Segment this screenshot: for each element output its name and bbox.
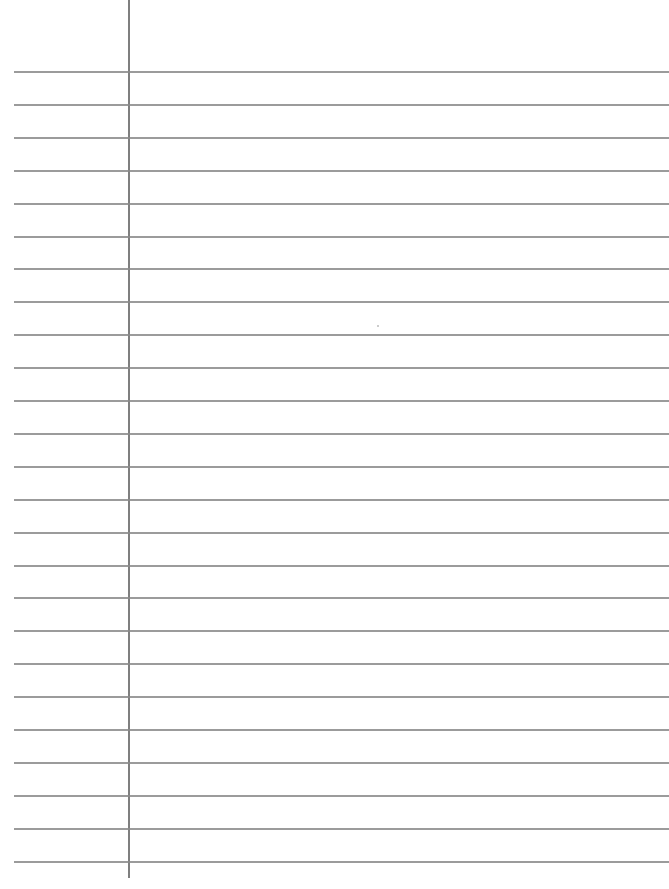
ruled-line xyxy=(14,104,669,106)
ruled-line xyxy=(14,334,669,336)
ruled-line xyxy=(14,663,669,665)
ruled-line xyxy=(14,795,669,797)
ruled-line xyxy=(14,236,669,238)
ruled-line xyxy=(14,696,669,698)
ruled-line xyxy=(14,565,669,567)
ruled-line xyxy=(14,466,669,468)
paper-speck xyxy=(377,325,379,327)
ruled-line xyxy=(14,367,669,369)
ruled-line xyxy=(14,71,669,73)
ruled-line xyxy=(14,301,669,303)
ruled-line xyxy=(14,433,669,435)
ruled-line xyxy=(14,499,669,501)
ruled-line xyxy=(14,762,669,764)
ruled-line xyxy=(14,400,669,402)
ruled-line xyxy=(14,268,669,270)
ruled-line xyxy=(14,137,669,139)
lined-paper-page xyxy=(0,0,669,889)
ruled-line xyxy=(14,170,669,172)
ruled-line xyxy=(14,828,669,830)
ruled-line xyxy=(14,729,669,731)
ruled-line xyxy=(14,630,669,632)
ruled-line xyxy=(14,597,669,599)
ruled-line xyxy=(14,203,669,205)
ruled-line xyxy=(14,861,669,863)
ruled-line xyxy=(14,532,669,534)
margin-line xyxy=(128,0,130,878)
